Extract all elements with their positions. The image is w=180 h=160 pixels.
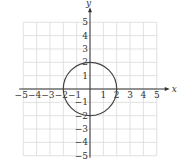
y-tick-label: 5 — [82, 17, 88, 27]
x-tick-label: −3 — [41, 90, 55, 100]
axes: x y — [19, 0, 177, 158]
y-tick-label: −1 — [75, 97, 88, 107]
x-axis-label: x — [172, 84, 177, 94]
x-tick-label: −2 — [55, 90, 68, 100]
y-tick-label: −4 — [75, 137, 89, 147]
x-tick-label: −4 — [28, 90, 42, 100]
x-tick-label: 3 — [127, 90, 133, 100]
x-tick-label: 1 — [100, 90, 106, 100]
y-tick-label: 3 — [82, 44, 88, 54]
y-tick-label: 4 — [82, 31, 88, 41]
y-axis-label: y — [85, 0, 92, 8]
x-tick-label: −5 — [15, 90, 29, 100]
x-tick-label: 4 — [141, 90, 147, 100]
x-axis-arrow-icon — [165, 87, 170, 91]
x-tick-label: 5 — [154, 90, 160, 100]
coordinate-plane: x y −5−4−3−2−11234554321−1−2−3−4−5 — [0, 0, 180, 160]
y-tick-label: 1 — [82, 71, 88, 81]
y-tick-label: −5 — [75, 151, 89, 160]
y-tick-label: −3 — [75, 124, 89, 134]
